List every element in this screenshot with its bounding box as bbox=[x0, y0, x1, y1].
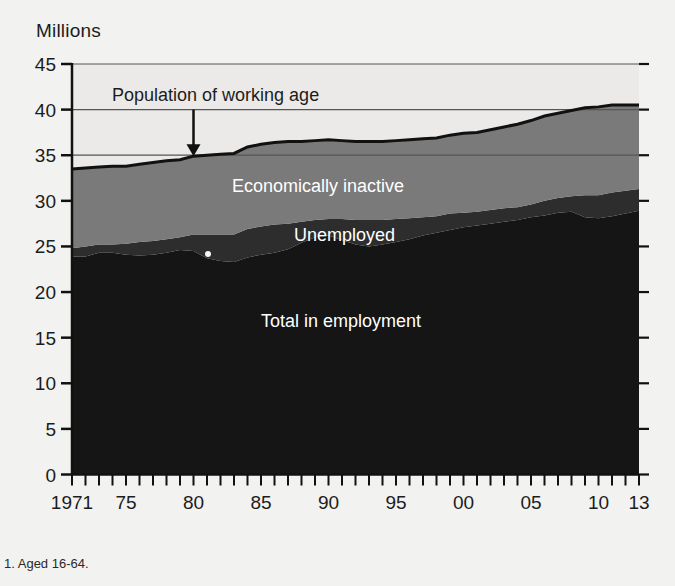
chart-figure: Millions 051015202530354045 197175808590… bbox=[0, 0, 675, 586]
y-tick-label-40: 40 bbox=[35, 100, 56, 121]
x-tick-label-75: 75 bbox=[115, 492, 136, 513]
band-label-inactive: Economically inactive bbox=[232, 176, 404, 196]
x-tick-label-85: 85 bbox=[250, 492, 271, 513]
y-tick-label-30: 30 bbox=[35, 191, 56, 212]
y-tick-label-group: 051015202530354045 bbox=[35, 54, 56, 486]
y-tick-label-0: 0 bbox=[45, 465, 56, 486]
y-tick-label-35: 35 bbox=[35, 145, 56, 166]
y-tick-label-5: 5 bbox=[45, 419, 56, 440]
band-label-unemployed: Unemployed bbox=[294, 225, 395, 245]
x-tick-group bbox=[72, 475, 639, 486]
scan-speck bbox=[205, 251, 211, 257]
callout-label-text: Population of working age bbox=[112, 85, 319, 105]
x-tick-label-00: 00 bbox=[453, 492, 474, 513]
band-label-employment: Total in employment bbox=[261, 311, 421, 331]
x-tick-label-05: 05 bbox=[520, 492, 541, 513]
x-tick-label-10: 10 bbox=[588, 492, 609, 513]
x-tick-label-13: 13 bbox=[628, 492, 649, 513]
plot-area: 051015202530354045 197175808590950005101… bbox=[0, 0, 675, 540]
footnote-text: 1. Aged 16-64. bbox=[4, 556, 89, 571]
y-tick-label-15: 15 bbox=[35, 328, 56, 349]
x-tick-label-90: 90 bbox=[318, 492, 339, 513]
stacked-area-chart: 051015202530354045 197175808590950005101… bbox=[0, 0, 675, 540]
x-tick-label-group: 1971758085909500051013 bbox=[51, 492, 650, 513]
x-tick-label-95: 95 bbox=[385, 492, 406, 513]
y-tick-group bbox=[61, 64, 72, 475]
y-tick-label-25: 25 bbox=[35, 236, 56, 257]
y-tick-right-group bbox=[639, 64, 649, 475]
y-tick-label-20: 20 bbox=[35, 282, 56, 303]
y-tick-label-45: 45 bbox=[35, 54, 56, 75]
y-tick-label-10: 10 bbox=[35, 373, 56, 394]
x-tick-label-1971: 1971 bbox=[51, 492, 93, 513]
x-tick-label-80: 80 bbox=[183, 492, 204, 513]
